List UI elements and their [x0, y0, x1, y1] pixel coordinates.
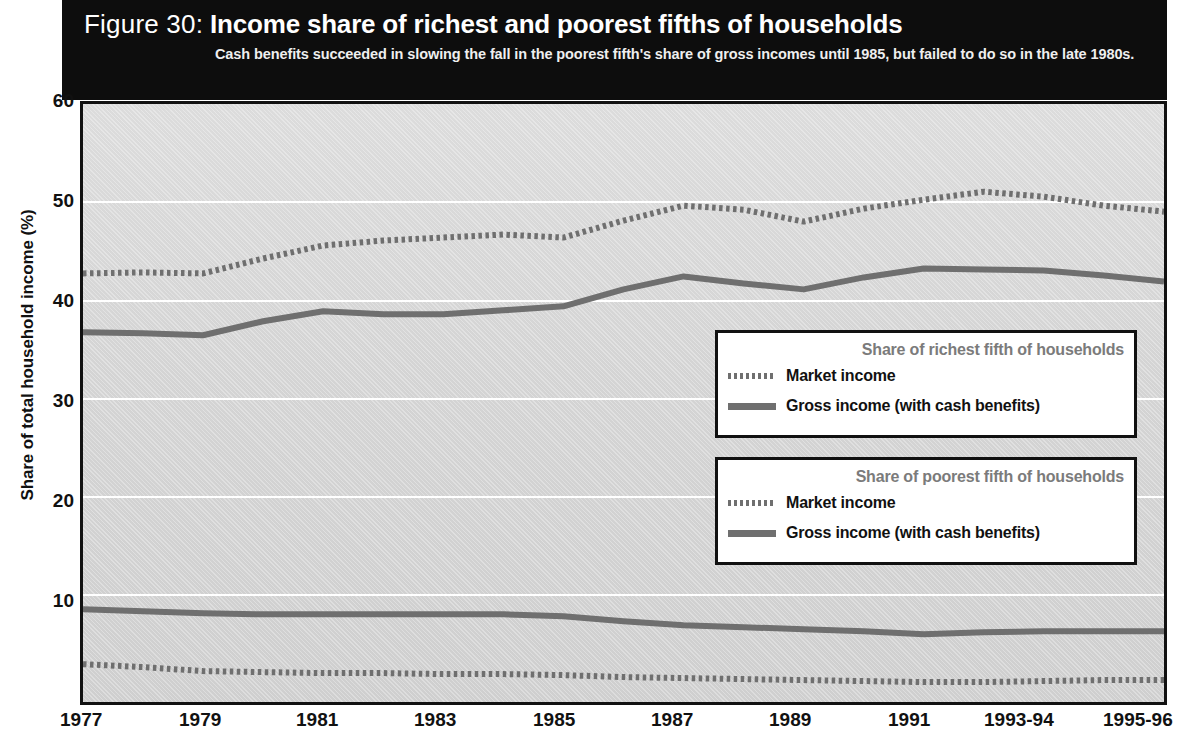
legend-richest-market-label: Market income: [786, 367, 895, 385]
x-tick-1995-96: 1995-96: [1103, 709, 1173, 731]
legend-poorest-market-label: Market income: [786, 494, 895, 512]
page-title: Income share of richest and poorest fift…: [203, 9, 902, 39]
figure-subtitle: Cash benefits succeeded in slowing the f…: [215, 46, 1155, 63]
legend-richest-fifth[interactable]: Share of richest fifth of households Mar…: [715, 330, 1137, 438]
dotted-line-icon: [728, 500, 776, 506]
x-tick-1985: 1985: [533, 709, 575, 731]
legend-poorest-gross-row[interactable]: Gross income (with cash benefits): [718, 518, 1134, 548]
legend-poorest-gross-label: Gross income (with cash benefits): [786, 524, 1040, 542]
x-tick-1983: 1983: [414, 709, 456, 731]
legend-richest-title: Share of richest fifth of households: [718, 333, 1134, 361]
series-line-0: [83, 192, 1164, 274]
figure-root: Figure 30:Income share of richest and po…: [0, 0, 1202, 742]
series-line-3: [83, 664, 1164, 682]
dotted-line-icon: [728, 373, 776, 379]
figure-label: Figure 30:: [84, 9, 203, 39]
x-tick-1991: 1991: [888, 709, 930, 731]
legend-poorest-market-row[interactable]: Market income: [718, 488, 1134, 518]
legend-richest-market-row[interactable]: Market income: [718, 361, 1134, 391]
x-tick-1987: 1987: [651, 709, 693, 731]
legend-richest-gross-label: Gross income (with cash benefits): [786, 397, 1040, 415]
x-tick-1981: 1981: [296, 709, 338, 731]
legend-poorest-fifth[interactable]: Share of poorest fifth of households Mar…: [715, 457, 1137, 565]
legend-richest-gross-row[interactable]: Gross income (with cash benefits): [718, 391, 1134, 421]
x-tick-1977: 1977: [60, 709, 102, 731]
x-tick-1993-94: 1993-94: [984, 709, 1054, 731]
x-tick-1989: 1989: [769, 709, 811, 731]
title-band: Figure 30:Income share of richest and po…: [62, 0, 1167, 100]
series-line-2: [83, 609, 1164, 634]
title-line: Figure 30:Income share of richest and po…: [84, 9, 902, 40]
legend-poorest-title: Share of poorest fifth of households: [718, 460, 1134, 488]
series-line-1: [83, 268, 1164, 335]
solid-line-icon: [728, 530, 776, 537]
y-axis-title: Share of total household income (%): [18, 95, 38, 615]
solid-line-icon: [728, 403, 776, 410]
x-tick-1979: 1979: [179, 709, 221, 731]
